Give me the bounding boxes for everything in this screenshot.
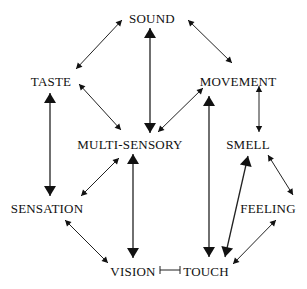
node-multi: MULTI-SENSORY xyxy=(77,137,182,153)
edge-taste-sensation xyxy=(44,93,56,196)
edge-feeling-touch xyxy=(233,220,276,264)
node-touch: TOUCH xyxy=(183,264,229,280)
edge-sound-taste xyxy=(76,20,122,69)
node-sound: SOUND xyxy=(129,11,175,27)
node-smell: SMELL xyxy=(226,137,270,153)
node-feeling: FEELING xyxy=(240,201,296,217)
edge-vision-touch xyxy=(160,266,180,274)
edge-multi-sensation xyxy=(81,158,119,196)
edge-movement-touch xyxy=(203,96,215,257)
node-movement: MOVEMENT xyxy=(200,74,277,90)
node-taste: TASTE xyxy=(31,74,71,90)
sensory-diagram: SOUNDTASTEMOVEMENTMULTI-SENSORYSMELLSENS… xyxy=(0,0,307,289)
edge-smell-feeling xyxy=(268,155,293,195)
edge-sound-multi xyxy=(144,28,156,133)
edge-movement-multi xyxy=(158,88,203,132)
edge-sound-movement xyxy=(188,20,232,63)
edge-movement-smell xyxy=(256,86,262,132)
node-vision: VISION xyxy=(110,264,155,280)
edge-taste-multi xyxy=(79,84,121,130)
node-sensation: SENSATION xyxy=(11,201,84,217)
edge-multi-vision xyxy=(127,154,139,258)
edge-sensation-vision xyxy=(65,220,108,263)
